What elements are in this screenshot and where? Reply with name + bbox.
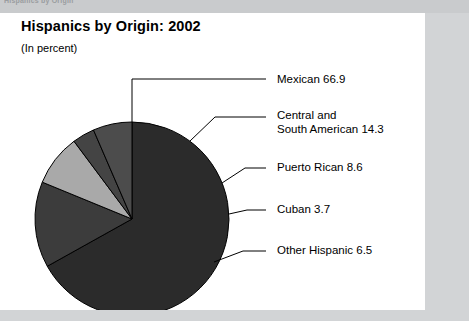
legend-label-line: Other Hispanic 6.5: [277, 244, 372, 258]
legend-label-mexican: Mexican 66.9: [277, 73, 345, 87]
legend-label-line: Mexican 66.9: [277, 73, 345, 87]
pie-legend: Mexican 66.9Central andSouth American 14…: [0, 13, 425, 310]
legend-label-line: Puerto Rican 8.6: [277, 161, 363, 175]
chart-panel: Hispanics by Origin: 2002 (In percent) M…: [0, 13, 425, 310]
scan-top-band: Hispanics by Origin: [0, 0, 469, 13]
legend-label-puerto-rican: Puerto Rican 8.6: [277, 161, 363, 175]
legend-label-central-and-south-american: Central andSouth American 14.3: [277, 109, 384, 136]
scan-bottom-margin-band: [0, 310, 469, 321]
legend-label-line: South American 14.3: [277, 123, 384, 137]
figure-root: Hispanics by Origin Hispanics by Origin:…: [0, 0, 469, 321]
scan-right-margin-band: [425, 13, 469, 321]
legend-label-other-hispanic: Other Hispanic 6.5: [277, 244, 372, 258]
legend-label-cuban: Cuban 3.7: [277, 203, 330, 217]
scan-top-fragment-text: Hispanics by Origin: [4, 0, 74, 4]
legend-label-line: Central and: [277, 109, 384, 123]
legend-label-line: Cuban 3.7: [277, 203, 330, 217]
